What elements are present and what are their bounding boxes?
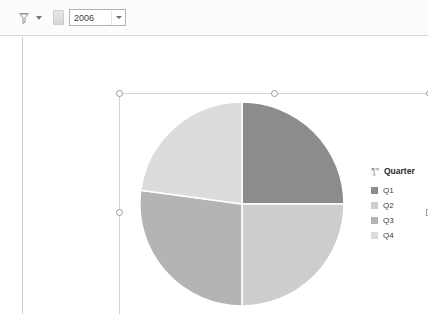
application-window: 2006 (0, 0, 428, 314)
year-select[interactable]: 2006 (69, 9, 126, 26)
legend-swatch-q2 (371, 202, 378, 209)
legend-item-q1[interactable]: Q1 (371, 183, 428, 198)
funnel-icon (17, 11, 31, 25)
legend-title-label: Quarter (384, 166, 415, 176)
resize-handle-middle-left[interactable] (116, 209, 123, 216)
legend-label-q1: Q1 (383, 186, 394, 195)
chevron-down-icon (116, 16, 122, 19)
legend-key-icon (371, 167, 380, 176)
field-icon (53, 10, 64, 25)
legend-label-q4: Q4 (383, 231, 394, 240)
legend-item-q4[interactable]: Q4 (371, 228, 428, 243)
legend-label-q2: Q2 (383, 201, 394, 210)
legend-swatch-q4 (371, 232, 378, 239)
document-canvas[interactable]: Quarter Q1 Q2 Q3 Q4 (22, 37, 428, 314)
year-select-value: 2006 (70, 13, 111, 23)
pie-chart-object[interactable]: Quarter Q1 Q2 Q3 Q4 (119, 93, 428, 314)
toolbar: 2006 (0, 0, 428, 36)
pie-chart-graphic[interactable] (138, 98, 346, 310)
pie-slice-q1[interactable] (242, 102, 344, 204)
year-select-dropdown-arrow[interactable] (111, 10, 125, 25)
legend-title-row: Quarter (371, 166, 428, 176)
chart-legend: Quarter Q1 Q2 Q3 Q4 (371, 166, 428, 243)
pie-slice-q3[interactable] (140, 190, 242, 306)
filter-button[interactable] (15, 8, 44, 28)
pie-slice-q4[interactable] (141, 102, 242, 204)
legend-swatch-q3 (371, 217, 378, 224)
resize-handle-top-left[interactable] (116, 90, 123, 97)
legend-item-q2[interactable]: Q2 (371, 198, 428, 213)
legend-item-q3[interactable]: Q3 (371, 213, 428, 228)
legend-label-q3: Q3 (383, 216, 394, 225)
legend-swatch-q1 (371, 187, 378, 194)
pie-svg (138, 98, 346, 310)
pie-slice-q2[interactable] (242, 204, 344, 306)
chevron-down-icon (36, 16, 42, 20)
resize-handle-top-center[interactable] (271, 90, 278, 97)
